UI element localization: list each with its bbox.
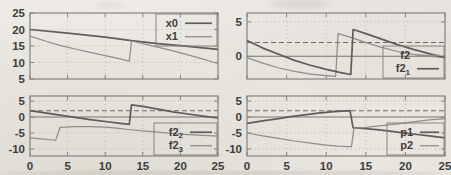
x-tick-label: 5 <box>64 160 71 172</box>
series-f2-line <box>247 34 445 77</box>
legend: f22f23 <box>154 123 217 155</box>
legend-label-f2: f2 <box>400 49 410 61</box>
legend-label-p1: p1 <box>400 126 413 138</box>
y-tick-label: 15 <box>12 40 25 52</box>
x-tick-label: 20 <box>174 160 187 172</box>
plot-border <box>30 96 218 156</box>
legend-box <box>154 123 217 155</box>
legend-box <box>383 46 444 78</box>
y-tick-label: -10 <box>225 143 242 155</box>
y-tick-label: 0 <box>236 111 242 123</box>
subplot-top-right: 50f2f21 <box>236 13 445 79</box>
legend-label-p2: p2 <box>400 139 413 151</box>
x-tick-label: 25 <box>212 160 225 172</box>
tick-marks <box>30 96 218 156</box>
x-tick-label: 15 <box>136 160 149 172</box>
y-tick-label: -5 <box>15 127 26 139</box>
series-f22-line <box>30 105 218 125</box>
subplot-bottom-left: 50-5-100510152025f22f23 <box>8 95 225 172</box>
x-tick-label: 0 <box>244 160 250 172</box>
x-tick-label: 0 <box>27 160 33 172</box>
subplot-bottom-right: 50-5-100510152025p1p2 <box>225 95 451 172</box>
legend: f2f21 <box>383 46 444 78</box>
x-tick-label: 10 <box>320 160 333 172</box>
y-tick-label: -10 <box>8 143 25 155</box>
y-tick-label: 20 <box>12 24 25 36</box>
gridlines <box>30 96 218 156</box>
y-tick-label: 5 <box>19 73 26 85</box>
y-tick-label: 5 <box>236 95 243 107</box>
y-tick-label: 10 <box>12 57 25 69</box>
y-tick-label: 5 <box>236 16 243 28</box>
y-tick-label: 5 <box>19 95 26 107</box>
series-p1-line <box>247 111 445 138</box>
y-tick-label: -5 <box>232 127 243 139</box>
legend-label-f23: f23 <box>169 139 184 154</box>
subplot-top-left: 252015105x0x1 <box>12 7 218 85</box>
legend-box <box>387 123 444 155</box>
x-tick-label: 25 <box>439 160 451 172</box>
x-tick-label: 5 <box>283 160 290 172</box>
series-f23-line <box>30 127 218 141</box>
y-tick-label: 0 <box>236 50 242 62</box>
legend: p1p2 <box>387 123 444 155</box>
x-tick-label: 15 <box>359 160 372 172</box>
legend-label-f21: f21 <box>396 62 411 77</box>
x-tick-label: 10 <box>99 160 112 172</box>
legend-label-f22: f22 <box>169 126 184 141</box>
legend-label-x1: x1 <box>166 30 178 42</box>
legend-label-x0: x0 <box>166 17 178 29</box>
plots-canvas: 252015105x0x150f2f2150-5-100510152025f22… <box>0 0 451 175</box>
scanned-figure-page: 252015105x0x150f2f2150-5-100510152025f22… <box>0 0 451 175</box>
y-tick-label: 25 <box>12 7 25 19</box>
x-tick-label: 20 <box>399 160 412 172</box>
y-tick-label: 0 <box>19 111 25 123</box>
